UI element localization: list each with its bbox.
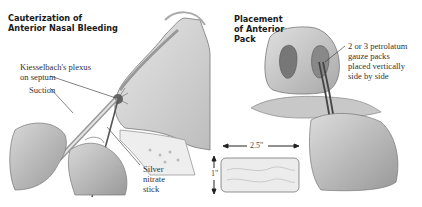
plexus-leader-line: [50, 76, 116, 98]
suction-label: Suction: [29, 86, 55, 96]
right-title-line1: Placement: [234, 14, 283, 24]
silver-label-line3: stick: [143, 185, 159, 195]
anterior-pack-panel: Placement of Anterior Pack 2 or 3 petrol…: [211, 0, 422, 207]
left-title-line2: Anterior Nasal Bleeding: [8, 23, 118, 33]
plexus-label-line2: on septum: [20, 73, 56, 83]
height-dimension-label: 1": [211, 169, 218, 178]
gauze-pack: [221, 158, 299, 192]
right-title-line2: of Anterior: [234, 24, 284, 34]
left-title-line1: Cauterization of: [8, 13, 82, 23]
gauze-label-line4: side by side: [348, 72, 389, 82]
width-dimension-label: 2.5": [250, 141, 263, 150]
right-title-line3: Pack: [234, 34, 256, 44]
cauterization-panel: Cauterization of Anterior Nasal Bleeding…: [0, 0, 211, 207]
